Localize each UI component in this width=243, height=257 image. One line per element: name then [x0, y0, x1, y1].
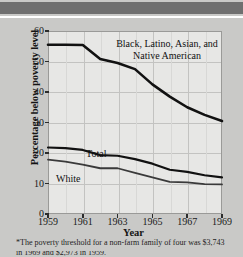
- bottom-padding: [0, 247, 243, 251]
- x-axis-title-text: Year: [99, 227, 144, 238]
- poverty-chart-figure: Percentage below poverty level 010203040…: [0, 18, 243, 251]
- y-tick-mark: [45, 122, 49, 124]
- y-tick-mark: [45, 91, 49, 93]
- annotation-minority-line2: Native American: [108, 50, 226, 62]
- annotation-total-series: Total: [86, 148, 106, 160]
- x-axis-title: Year: [0, 227, 243, 238]
- annotation-minority-series: Black, Latino, Asian, and Native America…: [108, 38, 226, 61]
- chart-plot-area: Percentage below poverty level 010203040…: [0, 18, 243, 218]
- annotation-white-series: White: [56, 173, 80, 185]
- annotation-minority-line1: Black, Latino, Asian, and: [108, 38, 226, 50]
- y-tick-mark: [45, 213, 49, 215]
- y-tick-mark: [45, 183, 49, 185]
- y-tick-mark: [45, 152, 49, 154]
- y-tick-mark: [45, 61, 49, 63]
- y-tick-mark: [45, 30, 49, 32]
